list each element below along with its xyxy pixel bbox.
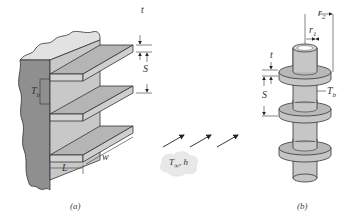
fin-arrays-diagram: t S Tb w L (a) T∞, h r2 r1 t S Tb (b) <box>0 0 359 224</box>
tube-opening <box>293 44 317 52</box>
base-temperature-label-a: Tb <box>31 86 40 99</box>
outer-radius-label: r2 <box>318 8 325 21</box>
inner-radius-label: r1 <box>309 25 316 38</box>
annular-fin-2 <box>279 100 331 123</box>
diagram-graphics <box>0 0 359 224</box>
annular-fin-1 <box>279 48 331 86</box>
fin-thickness-label-a: t <box>141 5 144 15</box>
fin-thickness-label-b: t <box>270 50 273 60</box>
base-temperature-label-b: Tb <box>327 86 336 99</box>
fin-spacing-label-a: S <box>143 64 148 74</box>
caption-b: (b) <box>297 201 308 211</box>
flow-arrows <box>163 135 238 147</box>
caption-a: (a) <box>70 201 81 211</box>
fin-spacing-label-b: S <box>262 90 267 100</box>
ambient-conditions-label: T∞, h <box>169 158 188 170</box>
fin-width-label: w <box>102 152 109 162</box>
annular-fin-3 <box>279 139 331 162</box>
fin-length-label: L <box>62 163 68 173</box>
